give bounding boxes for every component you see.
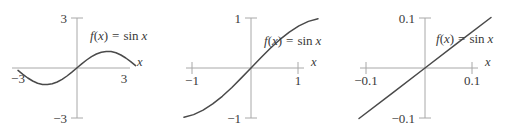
fn-close-2: ) (278, 33, 282, 48)
fn-close-3: ) (450, 31, 454, 46)
x-tick-label-left-2: −1 (185, 73, 199, 88)
y-tick-label-bottom-1: −3 (53, 111, 67, 126)
x-axis-label-2: x (310, 55, 317, 69)
fn-op-3: sin (469, 31, 485, 46)
x-tick-label-left-3: −0.1 (354, 73, 378, 88)
fn-equals-2: = (286, 33, 293, 48)
fn-arg-2: x (315, 33, 322, 48)
fn-op-1: sin (123, 28, 139, 43)
fn-arg-1: x (141, 28, 148, 43)
x-axis-label-1: x (136, 55, 143, 69)
y-tick-label-bottom-2: −1 (227, 111, 241, 126)
x-tick-label-right-1: 3 (121, 71, 128, 86)
fn-op-2: sin (297, 33, 313, 48)
x-tick-label-right-2: 1 (295, 73, 302, 88)
fn-equals-1: = (112, 28, 119, 43)
x-tick-label-right-3: 0.1 (464, 73, 480, 88)
y-tick-label-top-1: 3 (61, 11, 68, 26)
function-label-3: f(x)=sinx (436, 31, 494, 46)
x-axis-label-3: x (484, 55, 491, 69)
chart-panel-3: 0.1 −0.1 −0.1 0.1 x f(x)=sinx (348, 0, 522, 132)
chart-panel-2: 1 −1 −1 1 x f(x)=sinx (174, 0, 348, 132)
y-tick-label-bottom-3: −0.1 (391, 111, 415, 126)
fn-equals-3: = (458, 31, 465, 46)
function-label-2: f(x)=sinx (264, 33, 322, 48)
fn-close-1: ) (104, 28, 108, 43)
fn-arg-3: x (487, 31, 494, 46)
x-tick-label-left-1: −3 (11, 71, 25, 86)
chart-panel-1: 3 −3 −3 3 x f(x)=sinx (0, 0, 174, 132)
function-label-1: f(x)=sinx (90, 28, 148, 43)
y-tick-label-top-3: 0.1 (399, 11, 415, 26)
figure-sine-zoom-sequence: 3 −3 −3 3 x f(x)=sinx 1 −1 −1 1 x (0, 0, 522, 132)
y-tick-label-top-2: 1 (235, 11, 242, 26)
